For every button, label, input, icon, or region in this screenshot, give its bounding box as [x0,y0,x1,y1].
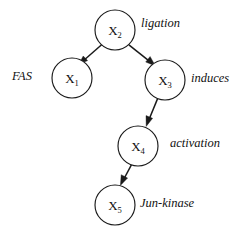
pathway-diagram: X2 X1 X3 X4 X5 FAS ligation induces acti… [0,0,245,233]
edge-x4-to-x5 [120,165,131,186]
node-x2-subscript: 2 [118,30,122,40]
edge-x4-to-x5-arrowhead [120,175,127,186]
node-x1-subscript: 1 [75,78,79,88]
node-x4[interactable]: X4 [118,126,158,166]
node-x1[interactable]: X1 [52,58,92,98]
annotation-ligation: ligation [141,17,180,30]
node-x5-subscript: 5 [118,205,122,215]
node-x4-subscript: 4 [141,146,146,156]
node-x3[interactable]: X3 [145,60,185,100]
annotation-fas: FAS [12,70,32,83]
annotation-jun-kinase: Jun-kinase [140,197,194,210]
annotation-activation: activation [170,137,220,150]
annotation-induces: induces [191,72,229,85]
edge-x3-to-x4 [146,98,158,126]
node-x5[interactable]: X5 [95,185,135,225]
edge-x3-to-x4-arrowhead [146,116,153,127]
diagram-canvas: X2 X1 X3 X4 X5 [0,0,245,233]
node-x3-subscript: 3 [168,80,172,90]
edge-x2-to-x3 [129,45,156,66]
node-x2[interactable]: X2 [95,10,135,50]
